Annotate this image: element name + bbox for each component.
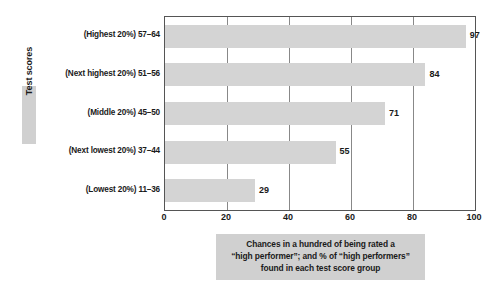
caption-line-1: Chances in a hundred of being rated a [220,238,421,250]
bar [165,102,385,125]
x-tick-label: 20 [221,212,231,222]
plot-inner: 9784715529 [165,17,475,210]
x-axis-caption: Chances in a hundred of being rated a “h… [216,234,425,280]
bar-value-label: 29 [259,185,269,195]
category-label: (Next highest 20%) 51–56 [12,69,160,78]
x-tick-label: 40 [283,212,293,222]
x-tick-label: 100 [466,212,481,222]
bar [165,141,336,164]
x-axis-tick-labels: 020406080100 [164,212,474,226]
bar [165,63,425,86]
bar-value-label: 71 [389,108,399,118]
category-label: (Middle 20%) 45–50 [12,108,160,117]
x-tick-label: 0 [161,212,166,222]
bar-value-label: 97 [470,30,480,40]
plot-area: 9784715529 [164,16,476,211]
x-tick-label: 80 [407,212,417,222]
category-label: (Lowest 20%) 11–36 [12,185,160,194]
category-label: (Highest 20%) 57–64 [12,30,160,39]
category-label: (Next lowest 20%) 37–44 [12,146,160,155]
caption-line-3: found in each test score group [220,262,421,274]
category-label-list: (Highest 20%) 57–64(Next highest 20%) 51… [12,16,160,209]
bar [165,179,255,202]
bar-value-label: 84 [429,69,439,79]
bar [165,25,466,48]
caption-line-2: “high performer”; and % of “high perform… [220,250,421,262]
x-tick-label: 60 [345,212,355,222]
bar-value-label: 55 [340,146,350,156]
